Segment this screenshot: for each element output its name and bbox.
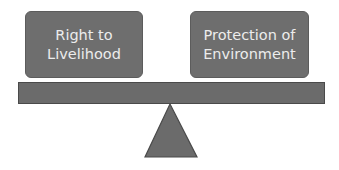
- right-label-line-1: Protection of: [204, 27, 296, 43]
- balance-beam: [18, 82, 325, 104]
- left-label-line-1: Right to: [55, 27, 112, 43]
- fulcrum-triangle-icon: [143, 103, 199, 159]
- left-label-line-2: Livelihood: [47, 46, 121, 62]
- right-weight-label: Protection of Environment: [203, 26, 296, 64]
- left-weight-label: Right to Livelihood: [47, 26, 121, 64]
- right-weight-box: Protection of Environment: [190, 11, 309, 78]
- left-weight-box: Right to Livelihood: [25, 11, 143, 78]
- right-label-line-2: Environment: [203, 46, 296, 62]
